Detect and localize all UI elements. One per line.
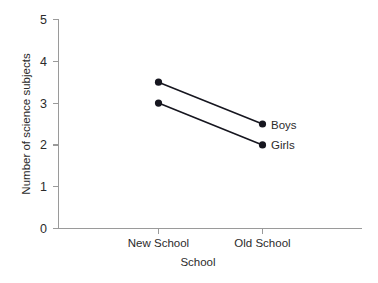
y-tick-label-5: 5 — [40, 13, 47, 27]
data-point-girls-old-school — [259, 141, 266, 148]
x-category-label-new-school: New School — [128, 237, 189, 249]
series-line-girls — [159, 103, 263, 145]
x-category-label-old-school: Old School — [234, 237, 290, 249]
science-subjects-line-chart: 5 4 3 2 1 0 Number of science subjects N… — [0, 0, 378, 283]
data-point-girls-new-school — [155, 100, 162, 107]
x-axis-title: School — [180, 256, 215, 268]
y-tick-label-1: 1 — [40, 180, 47, 194]
series-line-boys — [159, 82, 263, 124]
y-tick-label-3: 3 — [40, 97, 47, 111]
y-axis-title: Number of science subjects — [20, 53, 32, 195]
series-label-boys: Boys — [271, 119, 297, 131]
y-tick-label-4: 4 — [40, 55, 47, 69]
data-point-boys-old-school — [259, 120, 266, 127]
y-tick-label-0: 0 — [40, 222, 47, 236]
series-label-girls: Girls — [271, 139, 295, 151]
data-point-boys-new-school — [155, 79, 162, 86]
chart-plot-area: 5 4 3 2 1 0 Number of science subjects N… — [0, 0, 378, 283]
y-tick-label-2: 2 — [40, 138, 47, 152]
